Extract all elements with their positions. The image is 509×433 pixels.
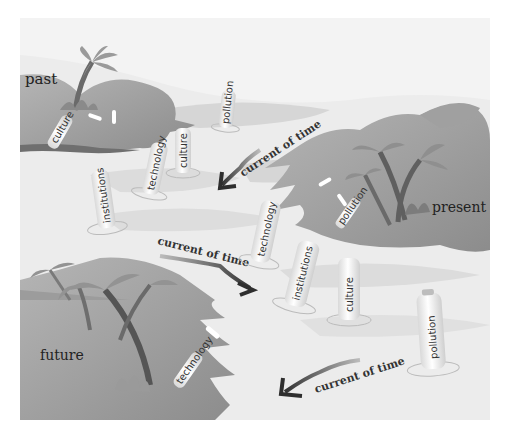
label-present: present xyxy=(432,199,486,215)
label-future: future xyxy=(40,347,84,363)
svg-text:culture: culture xyxy=(344,277,355,312)
label-past: past xyxy=(25,70,57,88)
bottle-shine-past-2 xyxy=(112,110,116,124)
time-islands-illustration: past present xyxy=(0,0,509,433)
svg-text:culture: culture xyxy=(178,133,189,168)
